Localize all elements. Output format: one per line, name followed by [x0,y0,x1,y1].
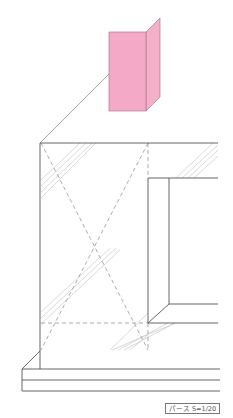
pink-corner-piece [109,18,160,111]
hatching [41,143,218,350]
scale-label: パース S=1/20 [165,403,220,414]
hidden-lines [41,143,148,350]
wall-outline [22,143,218,369]
floor-base [22,350,220,391]
leader-line [40,74,109,143]
perspective-diagram [0,0,233,418]
